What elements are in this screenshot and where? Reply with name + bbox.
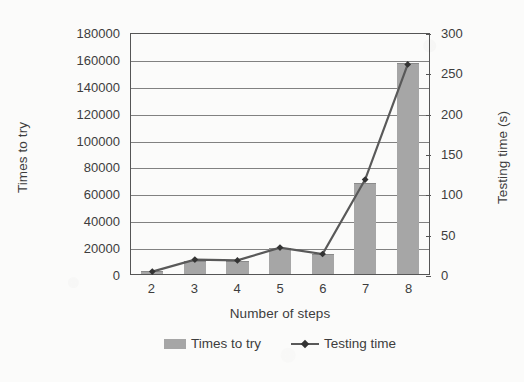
y-axis-right-tick-mark (426, 276, 431, 277)
y-axis-right-tick-label: 0 (441, 269, 448, 282)
y-axis-right-tick-label: 50 (441, 229, 455, 242)
y-axis-right-tick-label: 200 (441, 108, 463, 121)
chart-figure: Times to try Testing time (s) Number of … (0, 0, 524, 382)
y-axis-left-tick-label: 120000 (46, 108, 120, 121)
y-axis-left-tick-label: 80000 (46, 161, 120, 174)
line-series-testing-time (131, 34, 429, 274)
line-marker (191, 256, 198, 263)
x-axis-tick-label: 7 (344, 281, 387, 303)
legend-item[interactable]: Times to try (164, 336, 261, 351)
x-axis-ticks: 2345678 (130, 281, 430, 303)
chart-legend: Times to tryTesting time (130, 336, 430, 351)
legend-item-label: Times to try (191, 336, 261, 351)
y-axis-right-tick-label: 100 (441, 188, 463, 201)
legend-bar-swatch (164, 339, 186, 349)
y-axis-right-tick-label: 250 (441, 67, 463, 80)
y-axis-right-tick-label: 150 (441, 148, 463, 161)
legend-line-marker-icon (291, 339, 319, 349)
y-axis-left-tick-label: 160000 (46, 54, 120, 67)
x-axis-tick-label: 3 (173, 281, 216, 303)
x-axis-tick-label: 6 (301, 281, 344, 303)
legend-item[interactable]: Testing time (291, 336, 396, 351)
x-axis-title: Number of steps (130, 306, 430, 321)
y-axis-left-ticks: 1800001600001400001200001000008000060000… (46, 0, 120, 382)
y-axis-left-tick-label: 0 (46, 269, 120, 282)
y-axis-left-tick-label: 40000 (46, 215, 120, 228)
line-path (152, 64, 407, 271)
y-axis-right-tick-label: 300 (441, 27, 463, 40)
line-marker (149, 268, 156, 275)
y-axis-left-title: Times to try (15, 98, 30, 218)
y-axis-left-tick-label: 140000 (46, 81, 120, 94)
legend-item-label: Testing time (324, 336, 396, 351)
plot-area (130, 33, 430, 275)
y-axis-right-ticks: 300250200150100500 (441, 0, 501, 382)
x-axis-tick-label: 4 (216, 281, 259, 303)
line-marker (234, 257, 241, 264)
line-marker (404, 61, 411, 68)
line-marker (277, 244, 284, 251)
x-axis-tick-label: 8 (387, 281, 430, 303)
x-axis-tick-label: 5 (259, 281, 302, 303)
y-axis-left-tick-label: 60000 (46, 188, 120, 201)
x-axis-tick-label: 2 (130, 281, 173, 303)
y-axis-left-tick-label: 20000 (46, 242, 120, 255)
y-axis-left-tick-label: 100000 (46, 135, 120, 148)
y-axis-left-tick-label: 180000 (46, 27, 120, 40)
